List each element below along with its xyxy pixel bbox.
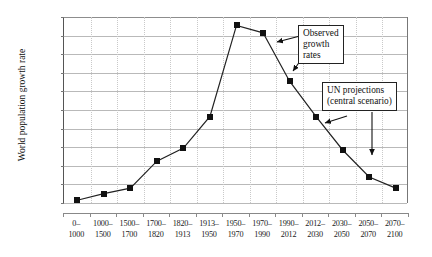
x-tick-mark bbox=[90, 213, 91, 217]
annotation-line: (central scenario) bbox=[327, 96, 392, 106]
x-tick-mark bbox=[169, 213, 170, 217]
x-tick-mark bbox=[222, 213, 223, 217]
x-tick-mark bbox=[63, 213, 64, 217]
x-tick-label: 2070–2100 bbox=[365, 219, 425, 240]
x-tick-mark bbox=[328, 213, 329, 217]
annotation-un-projections: UN projections (central scenario) bbox=[322, 82, 397, 111]
annotation-line: Observed bbox=[303, 28, 339, 38]
x-tick-mark bbox=[355, 213, 356, 217]
annotation-line: rates bbox=[303, 50, 321, 60]
population-growth-rate-chart: World population growth rate 2.0%1.8%1.6… bbox=[0, 0, 432, 257]
annotation-observed-growth-rates: Observed growth rates bbox=[298, 25, 344, 64]
x-tick-mark bbox=[408, 213, 409, 217]
x-tick-mark bbox=[116, 213, 117, 217]
x-tick-mark bbox=[143, 213, 144, 217]
x-tick-mark bbox=[196, 213, 197, 217]
x-tick-label-end: 2100 bbox=[365, 230, 425, 241]
x-tick-mark bbox=[381, 213, 382, 217]
x-tick-mark bbox=[275, 213, 276, 217]
annotation-line: growth bbox=[303, 39, 329, 49]
x-tick-mark bbox=[302, 213, 303, 217]
annotation-line: UN projections bbox=[327, 85, 384, 95]
x-tick-label-start: 2070– bbox=[385, 219, 404, 228]
x-tick-mark bbox=[249, 213, 250, 217]
